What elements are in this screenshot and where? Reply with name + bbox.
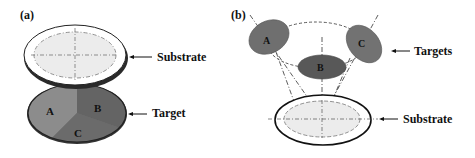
target-c-label: C	[358, 38, 365, 49]
diagram: (a) A B C	[0, 0, 475, 158]
target-label: Target	[152, 106, 186, 120]
panel-a: (a) A B C	[20, 8, 207, 150]
panel-b-label: (b)	[231, 8, 246, 22]
target-a: A	[243, 13, 295, 61]
target-b: B	[298, 55, 346, 79]
target-c: C	[339, 18, 389, 69]
panel-b: (b) A C B	[231, 8, 453, 145]
panel-a-label: (a)	[20, 8, 34, 22]
substrate-disk-b	[268, 95, 378, 145]
segment-c-label: C	[74, 127, 82, 139]
segment-b-label: B	[94, 102, 102, 114]
target-b-label: B	[317, 62, 324, 73]
substrate-label-b: Substrate	[403, 112, 453, 126]
target-disk: A B C	[20, 80, 140, 150]
substrate-disk	[24, 25, 128, 89]
targets-arrow	[391, 49, 410, 53]
substrate-arrow-a	[129, 55, 152, 59]
target-arrow	[128, 112, 147, 116]
substrate-arrow-b	[379, 117, 398, 121]
substrate-label-a: Substrate	[157, 50, 207, 64]
target-a-label: A	[263, 35, 271, 46]
segment-a-label: A	[46, 105, 54, 117]
targets-label: Targets	[414, 44, 453, 58]
